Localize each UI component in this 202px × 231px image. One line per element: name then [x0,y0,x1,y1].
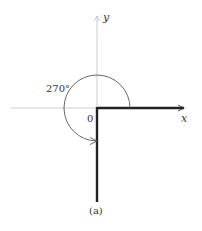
figure-caption: (a) [89,205,103,216]
y-axis-label: y [102,11,110,24]
angle-diagram: y x 0 270° (a) [0,0,202,231]
angle-label: 270° [46,83,70,94]
origin-label: 0 [87,113,93,124]
x-axis-label: x [181,112,188,125]
